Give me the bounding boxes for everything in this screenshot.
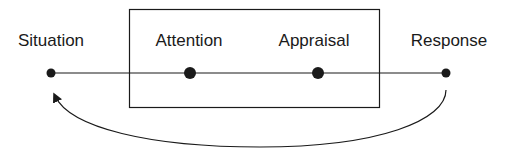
label-response: Response (411, 31, 488, 51)
appraisal-dot (312, 67, 324, 79)
label-appraisal: Appraisal (279, 31, 350, 51)
diagram-canvas (0, 0, 508, 159)
label-attention: Attention (155, 31, 222, 51)
process-box (130, 10, 380, 108)
attention-dot (184, 67, 196, 79)
feedback-arrow (55, 90, 446, 147)
situation-dot (47, 69, 56, 78)
label-situation: Situation (18, 31, 84, 51)
response-dot (442, 69, 451, 78)
